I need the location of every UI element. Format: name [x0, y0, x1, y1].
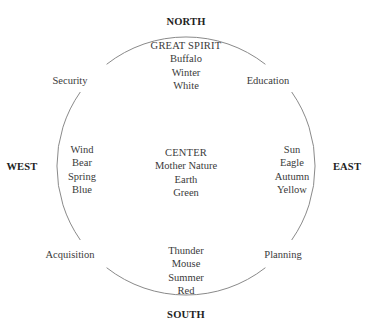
- direction-north: NORTH: [166, 17, 205, 28]
- south-quadrant: Thunder Mouse Summer Red: [168, 244, 204, 297]
- corner-education: Education: [247, 76, 290, 87]
- north-item: Buffalo: [151, 52, 222, 65]
- west-item: Wind: [68, 143, 96, 156]
- south-item: Mouse: [168, 257, 204, 270]
- west-quadrant: Wind Bear Spring Blue: [68, 143, 96, 196]
- north-quadrant: GREAT SPIRIT Buffalo Winter White: [151, 39, 222, 92]
- west-item: Bear: [68, 156, 96, 169]
- east-item: Autumn: [275, 170, 309, 183]
- east-item: Yellow: [275, 183, 309, 196]
- center-item: Green: [155, 186, 217, 199]
- medicine-wheel-diagram: NORTH SOUTH WEST EAST Security Education…: [0, 0, 369, 332]
- south-item: Red: [168, 284, 204, 297]
- north-item: Winter: [151, 66, 222, 79]
- north-heading: GREAT SPIRIT: [151, 39, 222, 52]
- west-item: Spring: [68, 170, 96, 183]
- corner-acquisition: Acquisition: [46, 250, 95, 261]
- center-group: CENTER Mother Nature Earth Green: [155, 146, 217, 199]
- center-item: Mother Nature: [155, 159, 217, 172]
- east-item: Eagle: [275, 156, 309, 169]
- direction-south: SOUTH: [167, 310, 205, 321]
- west-item: Blue: [68, 183, 96, 196]
- east-item: Sun: [275, 143, 309, 156]
- direction-west: WEST: [6, 162, 37, 173]
- east-quadrant: Sun Eagle Autumn Yellow: [275, 143, 309, 196]
- corner-planning: Planning: [264, 250, 301, 261]
- direction-east: EAST: [333, 162, 361, 173]
- north-item: White: [151, 79, 222, 92]
- center-heading: CENTER: [155, 146, 217, 159]
- center-item: Earth: [155, 173, 217, 186]
- corner-security: Security: [53, 76, 88, 87]
- south-item: Summer: [168, 271, 204, 284]
- south-item: Thunder: [168, 244, 204, 257]
